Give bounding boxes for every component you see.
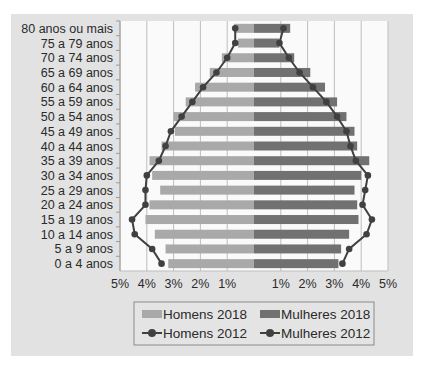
marker-point [213, 69, 220, 76]
y-tick-label: 0 a 4 anos [55, 257, 113, 271]
bar-homens-2018 [175, 127, 254, 136]
bar-mulheres-2018 [254, 156, 369, 165]
y-tick-label: 25 a 29 anos [41, 184, 113, 198]
marker-point [347, 143, 354, 150]
bar-homens-2018 [162, 142, 254, 151]
marker-point [323, 99, 330, 106]
marker-point [346, 246, 353, 253]
marker-point [200, 84, 207, 91]
marker-point [286, 54, 293, 61]
bar-mulheres-2018 [254, 112, 346, 121]
legend-swatch [142, 310, 162, 318]
bar-mulheres-2018 [254, 259, 338, 268]
marker-point [343, 128, 350, 135]
bar-homens-2018 [149, 200, 254, 209]
legend-swatch [260, 310, 280, 318]
marker-point [149, 246, 156, 253]
marker-point [129, 216, 136, 223]
population-pyramid-chart: 80 anos ou mais75 a 79 anos70 a 74 anos6… [0, 0, 421, 367]
y-tick-label: 65 a 69 anos [41, 66, 113, 80]
marker-point [144, 172, 151, 179]
marker-point [363, 231, 370, 238]
x-tick-label: 1% [218, 277, 236, 291]
x-tick-label: 4% [352, 277, 370, 291]
x-tick-label: 5% [379, 277, 397, 291]
y-tick-label: 60 a 64 anos [41, 81, 113, 95]
bar-mulheres-2018 [254, 39, 279, 48]
y-tick-label: 70 a 74 anos [41, 51, 113, 65]
bar-homens-2018 [155, 230, 254, 239]
bar-mulheres-2018 [254, 230, 349, 239]
y-tick-label: 40 a 44 anos [41, 140, 113, 154]
y-tick-label: 30 a 34 anos [41, 169, 113, 183]
bar-mulheres-2018 [254, 127, 355, 136]
bar-homens-2018 [186, 97, 254, 106]
legend-marker [266, 329, 274, 337]
marker-point [276, 40, 283, 47]
y-tick-label: 10 a 14 anos [41, 228, 113, 242]
marker-point [353, 157, 360, 164]
marker-point [189, 99, 196, 106]
legend: Homens 2018Mulheres 2018Homens 2012Mulhe… [134, 302, 374, 345]
legend-label: Mulheres 2012 [281, 326, 370, 341]
marker-point [280, 25, 287, 32]
marker-point [232, 25, 239, 32]
x-tick-label: 4% [138, 277, 156, 291]
bar-mulheres-2018 [254, 244, 341, 253]
legend-marker [148, 329, 156, 337]
marker-point [156, 157, 163, 164]
bar-homens-2018 [174, 112, 254, 121]
bar-mulheres-2018 [254, 215, 359, 224]
bar-mulheres-2018 [254, 171, 361, 180]
marker-point [158, 260, 165, 267]
bar-mulheres-2018 [254, 142, 357, 151]
x-tick-label: 1% [272, 277, 290, 291]
marker-point [142, 187, 149, 194]
y-tick-label: 20 a 24 anos [41, 198, 113, 212]
marker-point [359, 202, 366, 209]
legend-label: Homens 2012 [163, 326, 247, 341]
x-axis-labels: 5%4%3%2%1%1%2%3%4%5% [111, 277, 397, 291]
marker-point [162, 143, 169, 150]
y-tick-label: 80 anos ou mais [21, 22, 113, 36]
x-tick-label: 3% [325, 277, 343, 291]
bar-homens-2018 [160, 186, 254, 195]
marker-point [369, 216, 376, 223]
marker-point [296, 69, 303, 76]
marker-point [131, 231, 138, 238]
bar-homens-2018 [152, 171, 254, 180]
bar-homens-2018 [149, 156, 254, 165]
y-tick-label: 15 a 19 anos [41, 213, 113, 227]
x-tick-label: 5% [111, 277, 129, 291]
legend-label: Mulheres 2018 [281, 307, 370, 322]
marker-point [310, 84, 317, 91]
y-tick-label: 5 a 9 anos [55, 242, 113, 256]
marker-point [168, 128, 175, 135]
y-tick-label: 35 a 39 anos [41, 154, 113, 168]
marker-point [334, 113, 341, 120]
x-tick-label: 2% [191, 277, 209, 291]
x-tick-label: 2% [299, 277, 317, 291]
y-tick-label: 45 a 49 anos [41, 125, 113, 139]
bar-homens-2018 [238, 39, 254, 48]
legend-label: Homens 2018 [163, 307, 247, 322]
marker-point [339, 260, 346, 267]
y-axis-labels: 80 anos ou mais75 a 79 anos70 a 74 anos6… [21, 21, 120, 271]
marker-point [362, 187, 369, 194]
marker-point [142, 202, 149, 209]
x-tick-label: 3% [165, 277, 183, 291]
bar-homens-2018 [168, 259, 254, 268]
marker-point [365, 172, 372, 179]
marker-point [232, 40, 239, 47]
bar-mulheres-2018 [254, 186, 355, 195]
bar-homens-2018 [166, 244, 254, 253]
bar-homens-2018 [145, 215, 254, 224]
bar-mulheres-2018 [254, 200, 357, 209]
y-tick-label: 55 a 59 anos [41, 95, 113, 109]
marker-point [178, 113, 185, 120]
y-tick-label: 75 a 79 anos [41, 37, 113, 51]
marker-point [224, 54, 231, 61]
y-tick-label: 50 a 54 anos [41, 110, 113, 124]
